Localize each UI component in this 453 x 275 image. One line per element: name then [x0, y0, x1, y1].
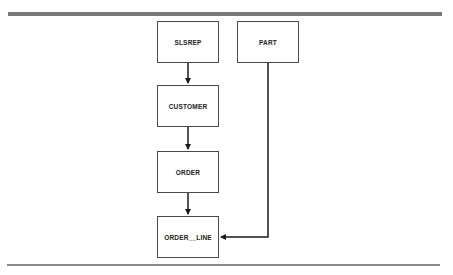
entity-customer: CUSTOMER: [157, 85, 219, 127]
entity-label: SLSREP: [174, 39, 201, 46]
connector-lines: [0, 0, 453, 275]
entity-part: PART: [237, 21, 299, 63]
entity-label: PART: [259, 39, 277, 46]
entity-label: CUSTOMER: [169, 103, 208, 110]
entity-label: ORDER: [176, 169, 200, 176]
entity-order: ORDER: [157, 151, 219, 193]
entity-order-line: ORDER__LINE: [157, 216, 219, 258]
bottom-rule: [7, 264, 440, 266]
arrow-part-orderline: [221, 63, 268, 237]
entity-label: ORDER__LINE: [164, 234, 212, 241]
entity-slsrep: SLSREP: [157, 21, 219, 63]
